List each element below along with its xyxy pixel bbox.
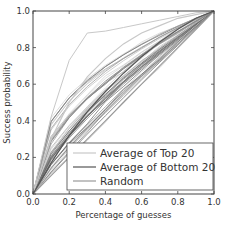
x-tick-label: 1.0 [207, 197, 221, 207]
legend-label-top20: Average of Top 20 [100, 147, 194, 159]
x-tick-label: 0.2 [62, 197, 76, 207]
chart: 0.00.20.40.60.81.00.00.20.40.60.81.0 Per… [0, 0, 226, 227]
y-tick-label: 0.6 [16, 79, 30, 89]
y-axis-label: Success probability [2, 61, 12, 143]
legend-label-random: Random [100, 175, 143, 187]
x-tick-label: 0.6 [135, 197, 149, 207]
y-tick-label: 0.4 [16, 116, 30, 126]
y-tick-label: 0.8 [16, 43, 30, 53]
x-axis-label: Percentage of guesses [76, 210, 173, 220]
y-tick-label: 0.2 [16, 152, 30, 162]
legend: Average of Top 20 Average of Bottom 20 R… [67, 143, 215, 190]
x-tick-label: 0.8 [171, 197, 185, 207]
y-tick-label: 1.0 [16, 6, 30, 16]
y-tick-label: 0.0 [16, 189, 30, 199]
x-tick-label: 0.4 [99, 197, 113, 207]
legend-label-bottom20: Average of Bottom 20 [100, 161, 215, 173]
